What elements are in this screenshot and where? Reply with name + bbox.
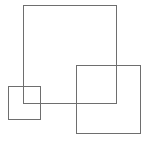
diagram-canvas: [0, 0, 151, 141]
medium-square: [76, 65, 141, 134]
small-square: [8, 86, 41, 120]
